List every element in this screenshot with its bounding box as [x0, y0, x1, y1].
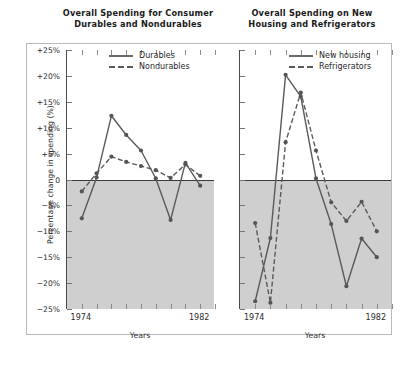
x-tick-mark	[270, 304, 271, 309]
y-tick-mark	[240, 231, 245, 232]
y-tick-mark	[240, 205, 245, 206]
chart-title-right-line1: Overall Spending on New	[232, 8, 392, 19]
x-tick-mark	[301, 304, 302, 309]
data-point-marker	[80, 189, 84, 193]
chart-panel-consumer-durables: Years 19741982	[66, 50, 214, 309]
data-point-marker	[80, 216, 84, 220]
x-tick-mark	[346, 304, 347, 309]
chart-title-left: Overall Spending for Consumer Durables a…	[58, 8, 218, 30]
data-point-marker	[360, 236, 364, 240]
legend-label-durables: Durables	[139, 50, 175, 61]
chart-panel-new-housing: Years 19741982	[239, 50, 391, 309]
x-tick-mark	[331, 304, 332, 309]
data-point-marker	[109, 114, 113, 118]
data-point-marker	[95, 171, 99, 175]
y-tick-label: −20%	[37, 279, 60, 288]
y-tick-label: +25%	[37, 46, 60, 55]
data-point-marker	[169, 176, 173, 180]
y-tick-mark	[67, 231, 72, 232]
y-axis: Percentage change in spending (%) +25%+2…	[20, 50, 64, 309]
y-tick-label: +20%	[37, 71, 60, 80]
data-point-marker	[124, 160, 128, 164]
y-tick-label: −25%	[37, 305, 60, 314]
y-tick-mark	[67, 205, 72, 206]
legend-label-nondurables: Nondurables	[139, 61, 190, 72]
y-tick-mark	[240, 102, 245, 103]
y-tick-mark	[67, 76, 72, 77]
y-tick-mark	[67, 102, 72, 103]
series-line-refrigerators	[255, 92, 377, 302]
x-tick-mark	[316, 304, 317, 309]
y-tick-mark	[240, 283, 245, 284]
legend-swatch-solid	[288, 51, 314, 61]
chart-title-right-line2: Housing and Refrigerators	[232, 19, 392, 30]
series-layer-right	[240, 50, 391, 309]
data-point-marker	[169, 218, 173, 222]
legend-swatch-dashed	[288, 62, 314, 72]
x-tick-label: 1982	[366, 313, 386, 322]
x-tick-mark	[97, 304, 98, 309]
data-point-marker	[299, 90, 303, 94]
legend-right: New housing Refrigerators	[288, 50, 371, 72]
chart-title-left-line2: Durables and Nondurables	[58, 19, 218, 30]
x-axis-title-right: Years	[239, 331, 391, 340]
y-tick-mark	[240, 50, 245, 51]
data-point-marker	[154, 176, 158, 180]
x-tick-mark-top	[97, 50, 98, 55]
y-tick-label: −15%	[37, 253, 60, 262]
data-point-marker	[314, 176, 318, 180]
x-tick-mark	[82, 304, 83, 309]
x-tick-mark-top	[200, 50, 201, 55]
y-tick-mark	[240, 257, 245, 258]
data-point-marker	[198, 174, 202, 178]
data-point-marker	[360, 200, 364, 204]
y-tick-mark	[240, 154, 245, 155]
x-tick-mark-top	[215, 50, 216, 55]
legend-label-new-housing: New housing	[319, 50, 371, 61]
data-point-marker	[139, 164, 143, 168]
x-tick-mark	[185, 304, 186, 309]
chart-title-left-line1: Overall Spending for Consumer	[58, 8, 218, 19]
x-tick-mark	[392, 304, 393, 309]
x-tick-mark	[126, 304, 127, 309]
x-tick-mark	[362, 304, 363, 309]
data-point-marker	[253, 221, 257, 225]
y-tick-label: −10%	[37, 227, 60, 236]
figure-root: Overall Spending for Consumer Durables a…	[0, 0, 413, 379]
data-point-marker	[329, 200, 333, 204]
legend-left: Durables Nondurables	[108, 50, 190, 72]
data-point-marker	[124, 133, 128, 137]
legend-swatch-dashed	[108, 62, 134, 72]
chart-title-right: Overall Spending on New Housing and Refr…	[232, 8, 392, 30]
x-tick-mark-top	[82, 50, 83, 55]
data-point-marker	[109, 155, 113, 159]
x-tick-mark	[156, 304, 157, 309]
data-point-marker	[268, 236, 272, 240]
data-point-marker	[329, 222, 333, 226]
data-point-marker	[139, 148, 143, 152]
data-point-marker	[284, 73, 288, 77]
x-tick-mark-top	[377, 50, 378, 55]
legend-label-refrigerators: Refrigerators	[319, 61, 371, 72]
x-tick-label: 1982	[189, 313, 209, 322]
y-tick-mark	[240, 180, 245, 181]
data-point-marker	[198, 184, 202, 188]
x-tick-mark	[171, 304, 172, 309]
y-tick-label: +5%	[42, 149, 60, 158]
data-point-marker	[344, 219, 348, 223]
y-tick-mark	[67, 283, 72, 284]
data-point-marker	[284, 140, 288, 144]
plot-area-left	[66, 50, 214, 309]
y-tick-label: +15%	[37, 97, 60, 106]
x-tick-mark	[215, 304, 216, 309]
data-point-marker	[375, 255, 379, 259]
x-axis-title-left: Years	[66, 331, 214, 340]
y-tick-mark	[67, 128, 72, 129]
x-tick-mark	[111, 304, 112, 309]
y-tick-mark	[67, 154, 72, 155]
x-tick-mark	[255, 304, 256, 309]
x-tick-label: 1974	[244, 313, 264, 322]
x-tick-mark	[200, 304, 201, 309]
legend-item-new-housing: New housing	[288, 50, 371, 61]
legend-item-durables: Durables	[108, 50, 190, 61]
